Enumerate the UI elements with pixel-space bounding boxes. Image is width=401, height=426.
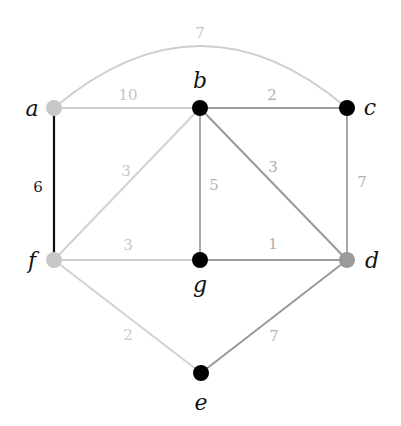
node-c xyxy=(339,100,355,116)
node-d xyxy=(339,252,355,268)
edge-weight-b-d: 3 xyxy=(268,158,278,176)
edge-weight-a-b: 10 xyxy=(118,86,137,104)
node-b xyxy=(192,100,208,116)
node-label-f: f xyxy=(26,248,40,273)
node-label-e: e xyxy=(194,390,207,415)
edges-layer xyxy=(54,46,347,373)
node-f xyxy=(46,252,62,268)
edge-weight-f-e: 2 xyxy=(123,326,133,344)
node-labels-layer: abcfgde xyxy=(25,68,379,415)
edge-weight-b-c: 2 xyxy=(267,86,277,104)
node-g xyxy=(192,252,208,268)
node-label-a: a xyxy=(25,96,38,121)
edge-e-d xyxy=(201,260,347,373)
node-label-d: d xyxy=(365,248,379,273)
edge-weight-a-c: 7 xyxy=(195,24,205,42)
edge-weight-c-d: 7 xyxy=(357,173,367,191)
node-e xyxy=(193,365,209,381)
node-label-g: g xyxy=(193,272,207,297)
node-a xyxy=(46,100,62,116)
edge-f-e xyxy=(54,260,201,373)
edge-weight-f-g: 3 xyxy=(123,236,133,254)
edge-weight-b-g: 5 xyxy=(209,176,219,194)
node-label-c: c xyxy=(364,95,376,120)
edge-weight-g-d: 1 xyxy=(268,235,278,253)
node-label-b: b xyxy=(193,68,207,93)
edge-weight-a-f: 6 xyxy=(33,178,43,196)
edge-weight-b-f: 3 xyxy=(121,162,131,180)
weighted-graph-diagram: 7102635373127 abcfgde xyxy=(0,0,401,426)
edge-weight-e-d: 7 xyxy=(269,327,279,345)
